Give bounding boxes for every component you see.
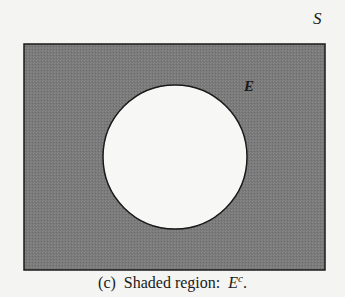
venn-diagram (0, 0, 345, 297)
event-label: E (244, 78, 254, 95)
figure-caption: (c) Shaded region: Ec. (0, 272, 345, 292)
sample-space-label: S (313, 9, 322, 29)
caption-prefix: (c) Shaded region: (98, 274, 228, 291)
caption-symbol: E (228, 274, 238, 291)
caption-suffix: . (243, 274, 247, 291)
event-circle (103, 85, 247, 229)
